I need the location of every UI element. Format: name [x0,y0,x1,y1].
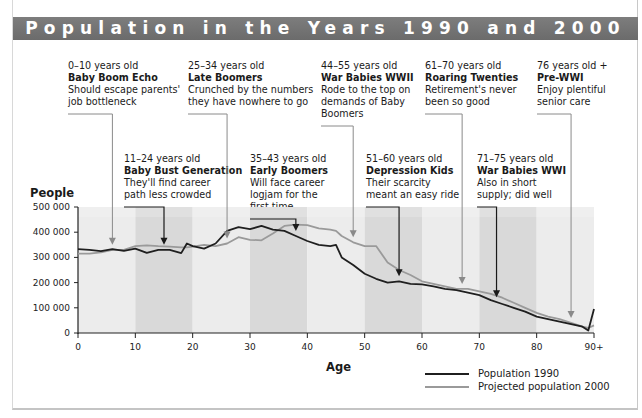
legend-label-1990: Population 1990 [478,368,559,379]
x-tick-label: 80 [531,342,543,352]
x-tick-label: 50 [359,342,371,352]
upper-band [78,207,594,217]
y-tick-label: 500 000 [33,202,70,212]
line-chart: 0100 000200 000300 000400 000500 0000102… [0,0,642,418]
x-tick-label: 30 [244,342,256,352]
age-band [365,207,422,333]
legend-label-2000: Projected population 2000 [478,381,610,392]
age-band [479,207,536,333]
y-tick-label: 200 000 [33,278,70,288]
x-tick-label: 10 [130,342,142,352]
x-tick-label: 60 [416,342,428,352]
legend-item-1990: Population 1990 [425,367,610,380]
y-tick-label: 300 000 [33,252,70,262]
y-tick-label: 0 [64,328,70,338]
legend: Population 1990 Projected population 200… [425,367,610,393]
x-tick-label: 40 [302,342,314,352]
x-tick-label: 70 [474,342,486,352]
legend-swatch-1990 [425,373,469,375]
age-band [307,207,364,333]
legend-swatch-2000 [425,386,469,388]
age-band [193,207,250,333]
legend-item-2000: Projected population 2000 [425,380,610,393]
x-tick-label: 0 [75,342,81,352]
x-tick-label: 20 [187,342,199,352]
age-band [537,207,594,333]
x-tick-label: 90+ [585,342,604,352]
age-band [78,207,135,333]
y-tick-label: 400 000 [33,227,70,237]
y-tick-label: 100 000 [33,303,70,313]
age-band [422,207,479,333]
